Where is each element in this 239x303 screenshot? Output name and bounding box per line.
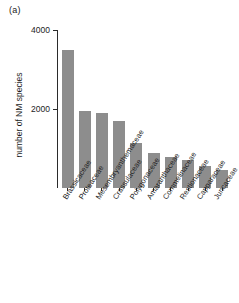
bar[interactable]	[113, 121, 125, 188]
x-tick-slot	[78, 188, 91, 192]
bar[interactable]	[130, 143, 142, 188]
x-tick	[84, 188, 85, 191]
bar-slot	[199, 30, 212, 188]
x-tick-slot	[130, 188, 143, 192]
bar[interactable]	[96, 113, 108, 188]
bar[interactable]	[216, 170, 228, 188]
x-tick-slot	[113, 188, 126, 192]
x-tick	[188, 188, 189, 191]
figure-panel-a: (a) number of NM species 20004000 Brassi…	[0, 0, 239, 303]
x-tick-slot	[216, 188, 229, 192]
bar-slot	[216, 30, 229, 188]
bar-slot	[61, 30, 74, 188]
x-tick-slot	[61, 188, 74, 192]
bar-slot	[95, 30, 108, 188]
x-tick	[205, 188, 206, 191]
x-tick-slot	[147, 188, 160, 192]
x-tick	[67, 188, 68, 191]
x-axis-ticks	[58, 188, 229, 192]
y-tick-label: 4000	[31, 25, 50, 35]
x-tick-slot	[164, 188, 177, 192]
bar[interactable]	[165, 157, 177, 188]
bar[interactable]	[148, 153, 160, 188]
bar[interactable]	[62, 50, 74, 188]
x-tick	[136, 188, 137, 191]
bar-slot	[164, 30, 177, 188]
x-tick	[222, 188, 223, 191]
bar-slot	[130, 30, 143, 188]
x-tick	[170, 188, 171, 191]
x-tick	[119, 188, 120, 191]
bar-series	[58, 30, 229, 188]
y-axis-title: number of NM species	[14, 60, 24, 170]
bar-slot	[113, 30, 126, 188]
bar-slot	[182, 30, 195, 188]
x-tick-slot	[199, 188, 212, 192]
bar-slot	[147, 30, 160, 188]
bar-slot	[78, 30, 91, 188]
panel-label: (a)	[9, 5, 21, 15]
x-tick	[101, 188, 102, 191]
x-tick	[153, 188, 154, 191]
x-tick-slot	[95, 188, 108, 192]
bar[interactable]	[199, 166, 211, 188]
y-tick-label: 2000	[31, 104, 50, 114]
x-tick-slot	[182, 188, 195, 192]
bar[interactable]	[79, 111, 91, 188]
bar[interactable]	[182, 160, 194, 188]
plot-area: 20004000	[57, 30, 229, 188]
